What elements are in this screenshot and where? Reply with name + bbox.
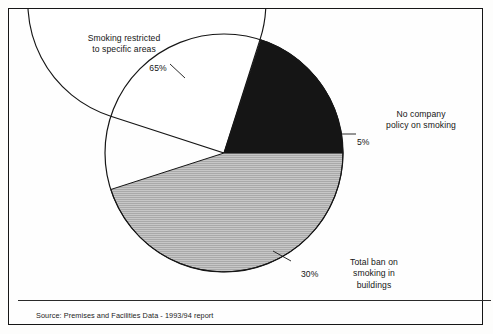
- slice-value-no-company-policy: 5%: [357, 137, 387, 148]
- chart-frame: Smoking restricted to specific areas 65%…: [8, 8, 483, 325]
- source-divider: [18, 300, 491, 301]
- pie-slice-total-ban: [111, 153, 343, 272]
- slice-label-smoking-restricted: Smoking restricted to specific areas: [61, 33, 187, 56]
- slice-label-total-ban: Total ban on smoking in buildings: [327, 257, 421, 291]
- slice-label-no-company-policy: No company policy on smoking: [367, 109, 475, 132]
- slice-value-total-ban: 30%: [301, 269, 331, 280]
- pie-slice-smoking-restricted: [28, 9, 266, 153]
- figure-container: Smoking restricted to specific areas 65%…: [0, 0, 493, 334]
- slice-value-smoking-restricted: 65%: [137, 63, 179, 74]
- source-note: Source: Premises and Facilities Data - 1…: [36, 311, 213, 320]
